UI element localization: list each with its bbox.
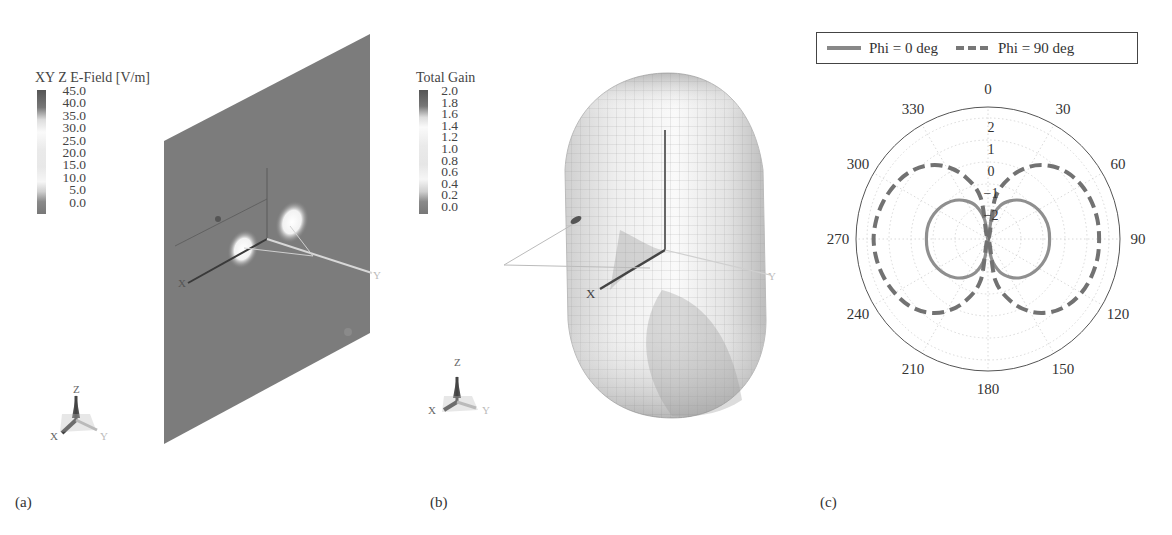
svg-text:Y: Y [482,404,490,416]
gain-pattern-render: X Y Z X Y [400,0,800,535]
svg-text:Z: Z [73,383,80,395]
radial-tick-2: 2 [988,120,995,136]
svg-text:X: X [50,430,58,442]
angle-tick-30: 30 [1056,101,1071,118]
angle-tick-330: 330 [902,101,925,118]
angle-tick-300: 300 [847,156,870,173]
angle-tick-150: 150 [1052,360,1075,377]
angle-tick-90: 90 [1131,231,1146,248]
svg-text:X: X [428,404,436,416]
x-axis-label: X [586,286,596,301]
angle-tick-120: 120 [1107,306,1130,323]
x-axis-label: X [178,277,186,289]
panel-polar-plot: Phi = 0 deg Phi = 90 deg 030609012015018… [800,0,1172,535]
radial-tick-0: 0 [988,164,995,180]
y-axis-label: Y [373,269,381,281]
panel-label-a: (a) [15,494,32,511]
panel-label-b: (b) [430,494,448,511]
radial-tick--1: −1 [984,186,999,202]
axis-triad-icon: Z X Y [50,383,108,442]
angle-tick-180: 180 [977,381,1000,398]
angle-tick-240: 240 [847,306,870,323]
angle-tick-60: 60 [1110,156,1125,173]
panel-label-c: (c) [820,494,837,511]
svg-text:Y: Y [100,430,108,442]
svg-text:Z: Z [454,356,461,368]
e-field-plane-render: X Y Z X Y [0,0,400,535]
angle-tick-210: 210 [902,360,925,377]
panel-3d-gain: Total Gain 2.0 1.8 1.6 1.4 1.2 1.0 0.8 0… [400,0,800,535]
angle-tick-0: 0 [984,81,992,98]
angle-tick-270: 270 [827,231,850,248]
radial-tick-1: 1 [988,142,995,158]
radial-tick--2: −2 [984,208,999,224]
panel-e-field: XY Z E-Field [V/m] 45.0 40.0 35.0 30.0 2… [0,0,400,535]
axis-triad-icon: Z X Y [428,356,490,416]
y-axis-label: Y [768,270,776,282]
